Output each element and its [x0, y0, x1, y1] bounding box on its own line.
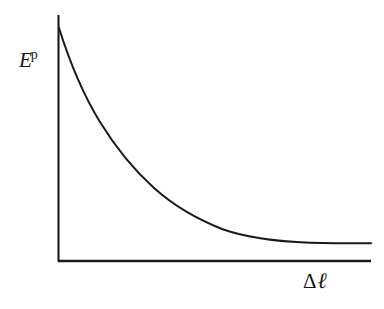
exponential-decay-plot — [0, 0, 384, 309]
y-axis-label: Ep — [19, 48, 38, 73]
y-axis-label-superscript: p — [31, 47, 38, 62]
y-axis-label-base: E — [19, 48, 32, 72]
decay-curve — [59, 28, 371, 243]
figure-container: Ep Δℓ — [0, 0, 384, 309]
x-axis-label: Δℓ — [303, 268, 327, 294]
delta-symbol: Δ — [303, 269, 317, 293]
ell-symbol: ℓ — [318, 268, 327, 293]
